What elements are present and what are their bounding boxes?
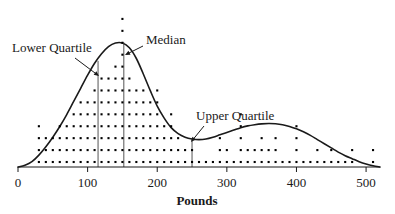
data-dot [177, 161, 179, 163]
data-dot [247, 149, 249, 151]
data-dot [142, 149, 144, 151]
data-dot [87, 137, 89, 139]
data-dot [149, 149, 151, 151]
data-dot [316, 161, 318, 163]
data-dot [184, 149, 186, 151]
data-dot [247, 161, 249, 163]
upper-quartile-annotation-text: Upper Quartile [196, 108, 275, 123]
data-dot [66, 161, 68, 163]
data-dot [135, 149, 137, 151]
data-dot [309, 161, 311, 163]
data-dot [198, 161, 200, 163]
data-dot [94, 161, 96, 163]
axis-ticks [18, 167, 366, 172]
data-dot [135, 137, 137, 139]
data-dot [107, 149, 109, 151]
data-dot [351, 149, 353, 151]
data-dot [45, 149, 47, 151]
data-dot [45, 137, 47, 139]
data-dot [177, 137, 179, 139]
data-dot [80, 137, 82, 139]
data-dot [372, 161, 374, 163]
data-dot [114, 77, 116, 79]
data-dot [52, 161, 54, 163]
data-dot [184, 161, 186, 163]
data-dot [156, 149, 158, 151]
data-dot [114, 125, 116, 127]
data-dot [114, 161, 116, 163]
data-dot [66, 149, 68, 151]
data-dot [38, 161, 40, 163]
data-dot [100, 149, 102, 151]
data-dot [275, 161, 277, 163]
data-dot [107, 161, 109, 163]
data-dot [163, 149, 165, 151]
data-dot [87, 125, 89, 127]
data-dot [156, 137, 158, 139]
data-dot [38, 149, 40, 151]
data-dot [107, 113, 109, 115]
data-dot [80, 101, 82, 103]
data-dot [268, 149, 270, 151]
data-dot [73, 137, 75, 139]
data-dot [149, 101, 151, 103]
data-dot [100, 113, 102, 115]
data-dot [302, 161, 304, 163]
axis-tick-labels: 0100200300400500 [15, 175, 376, 190]
data-dot [100, 77, 102, 79]
data-dot [38, 125, 40, 127]
data-dot [268, 161, 270, 163]
data-dot [128, 77, 130, 79]
data-dot [163, 137, 165, 139]
data-dot [142, 113, 144, 115]
data-dot [170, 137, 172, 139]
data-dot [59, 161, 61, 163]
data-dot [121, 77, 123, 79]
data-dot [142, 161, 144, 163]
data-dot [219, 161, 221, 163]
data-dot [156, 113, 158, 115]
data-dot [316, 149, 318, 151]
data-dot [121, 18, 123, 20]
data-dot [94, 137, 96, 139]
data-dot [163, 125, 165, 127]
data-dot [240, 149, 242, 151]
data-dot [128, 89, 130, 91]
data-dot [128, 149, 130, 151]
quartile-reference-lines [98, 42, 192, 167]
data-dot [261, 161, 263, 163]
dot-plot-figure: 0100200300400500 Lower QuartileMedianUpp… [0, 0, 395, 214]
data-dot [177, 149, 179, 151]
data-dot [128, 113, 130, 115]
lower-quartile-annotation: Lower Quartile [12, 40, 99, 76]
data-dot [351, 161, 353, 163]
data-dot [121, 89, 123, 91]
data-dot [156, 125, 158, 127]
axis-tick-label: 500 [356, 175, 376, 190]
data-dot [114, 137, 116, 139]
data-dot [240, 125, 242, 127]
data-dot [114, 149, 116, 151]
data-dot [275, 137, 277, 139]
data-dot [107, 137, 109, 139]
data-dot [107, 101, 109, 103]
data-dot [233, 161, 235, 163]
data-dot [205, 161, 207, 163]
data-dot [107, 125, 109, 127]
data-dot [121, 137, 123, 139]
x-axis: 0100200300400500 [15, 167, 380, 190]
data-dot [73, 125, 75, 127]
data-dot [219, 149, 221, 151]
data-dot [52, 137, 54, 139]
data-dot [73, 113, 75, 115]
data-dot [87, 161, 89, 163]
data-dot [156, 89, 158, 91]
data-dot [149, 137, 151, 139]
data-dot [128, 161, 130, 163]
data-dot [94, 125, 96, 127]
data-dot [254, 161, 256, 163]
data-dot [100, 137, 102, 139]
data-dot [66, 137, 68, 139]
data-dot [100, 161, 102, 163]
data-dot [73, 161, 75, 163]
